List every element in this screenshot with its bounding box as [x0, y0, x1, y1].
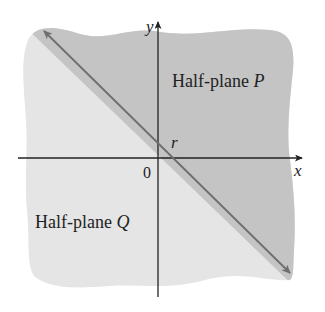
- half-plane-q-var: Q: [116, 212, 129, 232]
- half-plane-p-label: Half-plane P: [172, 71, 264, 91]
- half-plane-diagram: y x 0 r Half-plane P Half-plane Q: [0, 0, 325, 312]
- origin-label: 0: [143, 164, 151, 181]
- x-axis-label: x: [293, 161, 302, 180]
- y-axis-label: y: [144, 17, 154, 36]
- plane-region: [0, 0, 325, 312]
- half-plane-q-label: Half-plane Q: [35, 212, 129, 232]
- half-plane-q-prefix: Half-plane: [35, 212, 116, 232]
- intercept-label-r: r: [171, 133, 178, 152]
- half-plane-p-prefix: Half-plane: [172, 71, 253, 91]
- half-plane-p-var: P: [252, 71, 264, 91]
